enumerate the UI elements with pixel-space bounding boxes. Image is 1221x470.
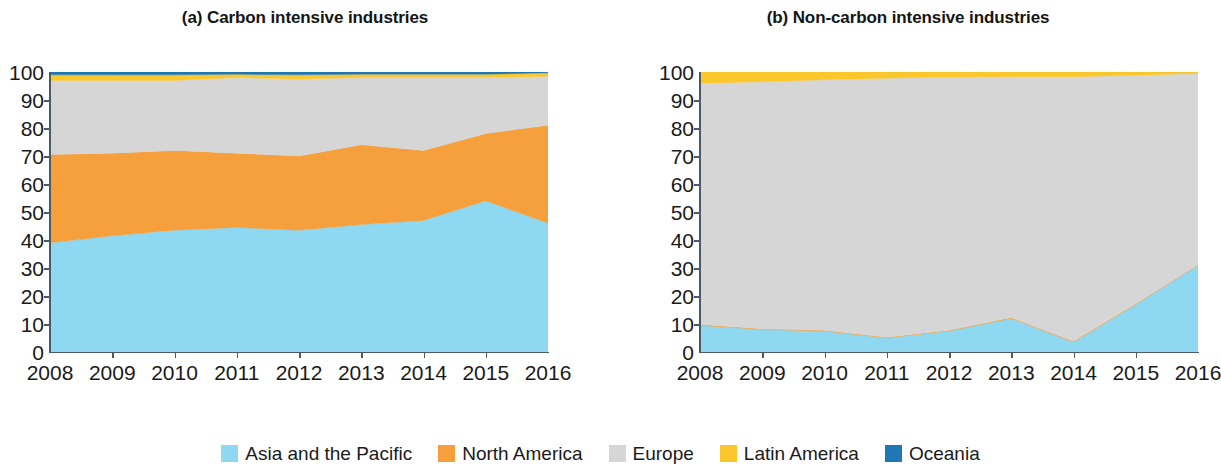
- legend-item-label: Europe: [633, 444, 694, 463]
- y-tick-mark: [694, 212, 700, 214]
- y-tick-label: 100: [659, 62, 694, 83]
- y-tick-mark: [694, 268, 700, 270]
- legend-item-label: North America: [462, 444, 582, 463]
- x-tick-mark: [361, 352, 363, 358]
- y-tick-label: 0: [32, 342, 44, 363]
- x-tick-mark: [1136, 352, 1138, 358]
- y-tick-label: 40: [671, 230, 694, 251]
- x-tick-mark: [424, 352, 426, 358]
- legend-item[interactable]: Asia and the Pacific: [221, 444, 412, 463]
- y-tick-label: 60: [671, 174, 694, 195]
- panel-b-y-axis-labels: 1009080706050403020100: [650, 72, 694, 352]
- x-tick-mark: [949, 352, 951, 358]
- legend-swatch-icon: [221, 445, 238, 462]
- x-tick-mark: [762, 352, 764, 358]
- y-tick-mark: [44, 128, 50, 130]
- y-tick-mark: [44, 184, 50, 186]
- y-tick-label: 90: [21, 90, 44, 111]
- y-tick-mark: [44, 296, 50, 298]
- x-tick-mark: [1074, 352, 1076, 358]
- legend-swatch-icon: [885, 445, 902, 462]
- panel-b-plot-area: [700, 72, 1198, 352]
- y-tick-mark: [694, 156, 700, 158]
- x-tick-mark: [486, 352, 488, 358]
- panel-a-y-axis-labels: 1009080706050403020100: [0, 72, 44, 352]
- x-tick-mark: [175, 352, 177, 358]
- y-tick-mark: [44, 240, 50, 242]
- panel-a-area-chart: [50, 72, 548, 352]
- y-tick-mark: [44, 268, 50, 270]
- y-tick-label: 80: [671, 118, 694, 139]
- y-tick-label: 90: [671, 90, 694, 111]
- y-tick-label: 20: [671, 286, 694, 307]
- x-tick-label: 2011: [864, 362, 909, 383]
- x-tick-label: 2013: [988, 362, 1035, 383]
- y-tick-mark: [44, 156, 50, 158]
- y-tick-mark: [694, 184, 700, 186]
- y-tick-mark: [44, 212, 50, 214]
- y-tick-mark: [694, 240, 700, 242]
- panel-b-title: (b) Non-carbon intensive industries: [601, 8, 1201, 28]
- x-tick-label: 2012: [926, 362, 973, 383]
- y-tick-label: 80: [21, 118, 44, 139]
- y-tick-mark: [694, 128, 700, 130]
- x-tick-mark: [1011, 352, 1013, 358]
- panel-b-area-chart: [700, 72, 1198, 352]
- legend-item-label: Oceania: [909, 444, 980, 463]
- legend-item[interactable]: North America: [438, 444, 582, 463]
- y-tick-mark: [44, 324, 50, 326]
- legend-swatch-icon: [720, 445, 737, 462]
- y-tick-label: 50: [21, 202, 44, 223]
- x-tick-label: 2016: [1175, 362, 1221, 383]
- y-tick-label: 50: [671, 202, 694, 223]
- x-tick-mark: [237, 352, 239, 358]
- x-tick-label: 2014: [1050, 362, 1097, 383]
- x-tick-label: 2014: [400, 362, 447, 383]
- y-tick-label: 100: [9, 62, 44, 83]
- y-tick-label: 10: [21, 314, 44, 335]
- legend-item[interactable]: Europe: [609, 444, 694, 463]
- x-tick-label: 2016: [525, 362, 572, 383]
- x-tick-label: 2012: [276, 362, 323, 383]
- x-tick-mark: [825, 352, 827, 358]
- x-tick-label: 2009: [89, 362, 136, 383]
- x-tick-label: 2013: [338, 362, 385, 383]
- y-tick-mark: [694, 324, 700, 326]
- legend-item-label: Latin America: [744, 444, 859, 463]
- y-tick-mark: [694, 296, 700, 298]
- legend-item-label: Asia and the Pacific: [245, 444, 412, 463]
- x-tick-label: 2010: [151, 362, 198, 383]
- chart-panel-b: (b) Non-carbon intensive industries 1009…: [601, 0, 1201, 400]
- legend-swatch-icon: [438, 445, 455, 462]
- y-tick-label: 0: [682, 342, 694, 363]
- x-tick-label: 2008: [677, 362, 724, 383]
- panel-b-x-axis-labels: 200820092010201120122013201420152016: [700, 362, 1198, 392]
- legend-item[interactable]: Oceania: [885, 444, 980, 463]
- x-tick-label: 2011: [214, 362, 259, 383]
- panel-a-x-axis-labels: 200820092010201120122013201420152016: [50, 362, 548, 392]
- x-tick-mark: [299, 352, 301, 358]
- y-tick-mark: [694, 100, 700, 102]
- panel-a-title: (a) Carbon intensive industries: [0, 8, 600, 28]
- x-tick-label: 2015: [1112, 362, 1159, 383]
- y-tick-label: 10: [671, 314, 694, 335]
- area-series-oceania: [50, 72, 548, 75]
- area-series-europe: [700, 73, 1198, 341]
- y-tick-mark: [44, 100, 50, 102]
- chart-legend: Asia and the PacificNorth AmericaEuropeL…: [0, 440, 1201, 466]
- x-tick-label: 2010: [801, 362, 848, 383]
- legend-swatch-icon: [609, 445, 626, 462]
- y-tick-label: 40: [21, 230, 44, 251]
- y-tick-label: 30: [671, 258, 694, 279]
- y-tick-label: 60: [21, 174, 44, 195]
- legend-item[interactable]: Latin America: [720, 444, 859, 463]
- chart-panel-a: (a) Carbon intensive industries 10090807…: [0, 0, 600, 400]
- panel-a-plot-area: [50, 72, 548, 352]
- x-tick-label: 2015: [462, 362, 509, 383]
- y-tick-label: 30: [21, 258, 44, 279]
- x-tick-mark: [887, 352, 889, 358]
- y-tick-label: 70: [671, 146, 694, 167]
- x-tick-label: 2009: [739, 362, 786, 383]
- x-tick-mark: [112, 352, 114, 358]
